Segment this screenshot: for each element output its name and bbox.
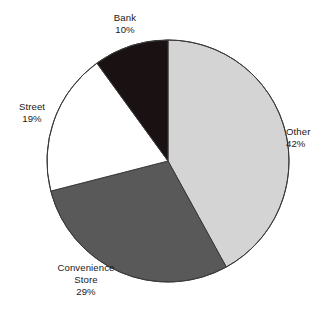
slice-label-street-name: Street	[4, 101, 60, 113]
slice-label-bank: Bank 10%	[0, 12, 332, 36]
slice-label-bank-value: 10%	[0, 24, 332, 36]
slice-label-other: Other 42%	[286, 126, 311, 150]
slice-label-convenience-store-name: Convenience	[36, 262, 136, 274]
slice-label-convenience-store-name2: Store	[36, 274, 136, 286]
slice-label-bank-name: Bank	[0, 12, 332, 24]
pie-slice-group	[47, 40, 289, 282]
slice-label-other-name: Other	[286, 126, 311, 138]
slice-label-other-value: 42%	[286, 138, 311, 150]
slice-label-convenience-store-value: 29%	[36, 286, 136, 298]
pie-chart: Bank 10% Other 42% Street 19% Convenienc…	[0, 0, 332, 323]
slice-label-convenience-store: Convenience Store 29%	[36, 262, 136, 298]
slice-label-street-value: 19%	[4, 113, 60, 125]
slice-label-street: Street 19%	[4, 101, 60, 125]
